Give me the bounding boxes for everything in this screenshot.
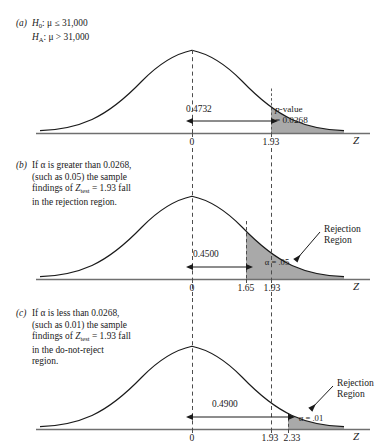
area-label-a: 0.4732: [186, 104, 212, 115]
panel-c: (c) If α is less than 0.0268, (such as 0…: [0, 298, 387, 448]
panel-c-caption: (c) If α is less than 0.0268, (such as 0…: [16, 308, 131, 368]
p-value-label: p-value = 0.0268: [275, 104, 308, 125]
c-line3-post: = 1.93 fall: [90, 331, 131, 341]
area-label-c: 0.4900: [212, 399, 238, 410]
c-line3-sub: test: [80, 335, 89, 342]
tick-label-165-b: 1.65: [238, 282, 255, 293]
panel-c-caption-line-2: (such as 0.01) the sample: [32, 320, 131, 332]
tick-label-233-c: 2.33: [284, 432, 301, 443]
alpha-label-b: α = .05: [265, 257, 289, 267]
axis-label-b: Z: [353, 280, 359, 292]
panel-c-caption-line-5: region.: [32, 356, 131, 368]
c-line3-pre: findings of: [32, 331, 75, 341]
rejection-region-line1-b: Rejection: [324, 223, 361, 234]
b-line3-sub: test: [80, 187, 89, 194]
tick-label-zero-a: 0: [190, 136, 195, 147]
ha-symbol: H: [32, 32, 39, 42]
tick-label-193-c: 1.93: [262, 432, 279, 443]
alpha-label-c: α = .01: [299, 413, 323, 423]
rejection-region-line2-c: Region: [337, 388, 374, 399]
area-label-b: 0.4500: [193, 249, 219, 260]
b-line3-pre: findings of: [32, 183, 75, 193]
axis-label-a: Z: [353, 134, 359, 146]
panel-b-caption-line-1: If α is greater than 0.0268,: [32, 160, 131, 172]
tick-label-zero-b: 0: [190, 282, 195, 293]
hypothesis-test-figure: (a) H0: μ ≤ 31,000 HA: μ > 31,000 0.4732…: [0, 0, 387, 448]
p-value-line1: p-value: [275, 104, 308, 115]
rejection-region-pointer-c: [311, 386, 333, 409]
panel-c-caption-line-3: findings of Ztest = 1.93 fall: [32, 331, 131, 345]
tick-label-zero-c: 0: [190, 432, 195, 443]
panel-c-tag: (c): [16, 308, 32, 320]
panel-c-caption-line-1: If α is less than 0.0268,: [32, 308, 131, 320]
rejection-region-line2-b: Region: [324, 234, 361, 245]
rejection-region-label-c: Rejection Region: [337, 377, 374, 400]
panel-a-alt-hypothesis: HA: μ > 31,000: [32, 32, 89, 46]
panel-b-caption: (b) If α is greater than 0.0268, (such a…: [16, 160, 131, 208]
ha-statement: : μ > 31,000: [44, 32, 90, 42]
h0-statement: : μ ≤ 31,000: [42, 18, 88, 28]
p-value-line2: = 0.0268: [275, 115, 308, 126]
h0-symbol: H: [32, 18, 39, 28]
b-line3-post: = 1.93 fall: [90, 183, 131, 193]
panel-c-caption-line-4: in the do-not-reject: [32, 345, 131, 357]
panel-a-tag: (a): [16, 18, 32, 30]
panel-b-caption-line-4: in the rejection region.: [32, 197, 131, 209]
rejection-region-line1-c: Rejection: [337, 377, 374, 388]
rejection-region-pointer-b: [296, 232, 320, 260]
panel-b-caption-line-2: (such as 0.05) the sample: [32, 172, 131, 184]
panel-a-null-hypothesis: H0: μ ≤ 31,000: [32, 18, 89, 32]
panel-b: (b) If α is greater than 0.0268, (such a…: [0, 148, 387, 298]
axis-label-c: Z: [353, 430, 359, 442]
tick-label-193-a: 1.93: [263, 136, 280, 147]
rejection-region-label-b: Rejection Region: [324, 223, 361, 246]
panel-b-caption-line-3: findings of Ztest = 1.93 fall: [32, 183, 131, 197]
tick-label-193-b: 1.93: [264, 282, 281, 293]
panel-a-caption: (a) H0: μ ≤ 31,000 HA: μ > 31,000: [16, 18, 89, 45]
panel-b-tag: (b): [16, 160, 32, 172]
panel-a: (a) H0: μ ≤ 31,000 HA: μ > 31,000 0.4732…: [0, 0, 387, 148]
